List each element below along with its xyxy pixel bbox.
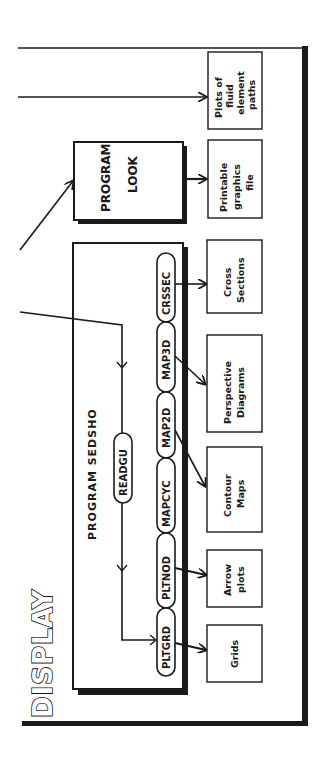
output-label-line: Printable [218,163,229,212]
pill-pltnod: PLTNOD [157,533,175,608]
output-fluid-paths: Plots of fluid element paths [208,52,262,129]
output-label-line: paths [246,79,257,110]
output-label-line: plots [235,566,246,593]
output-label-line: Maps [235,479,246,508]
output-printable-graphics: Printable graphics file [208,140,262,218]
pill-pltgrd: PLTGRD [157,608,175,676]
pill-map2d: MAP2D [157,392,175,458]
pill-mapcyc: MAPCYC [157,458,175,533]
pill-label: PLTNOD [161,556,172,600]
pill-label: CRSSEC [161,272,172,315]
program-sedsho-label: PROGRAM SEDSHO [86,408,99,540]
pill-label: MAPCYC [161,480,172,527]
output-label-line: Diagrams [235,367,246,418]
output-label-line: graphics [231,164,242,210]
readgu-pill: READGU [114,433,132,503]
output-label-line: file [244,174,255,191]
diagram-title: DISPLAY [28,589,58,718]
pill-label: MAP3D [161,340,172,380]
display-diagram: DISPLAY PROGRAM LOOK PROGRAM SEDSHO READ… [0,0,324,761]
pill-label: MAP2D [161,408,172,448]
output-label-line: Cross [222,267,233,297]
output-grids: Grids [207,625,262,682]
output-label-line: Contour [222,474,233,517]
output-label-line: Plots of [213,76,224,118]
output-label-line: Sections [235,257,246,303]
output-label-line: fluid [224,84,235,108]
output-boxes: Plots of fluid element paths Printable g… [207,52,262,682]
output-arrow-plots: Arrow plots [207,550,262,607]
program-look-line1: PROGRAM [99,143,113,212]
program-look-line2: LOOK [126,155,140,193]
readgu-label: READGU [118,449,129,496]
output-contour-maps: Contour Maps [207,447,262,532]
pill-map3d: MAP3D [157,322,175,392]
subroutine-pills: CRSSEC MAP3D MAP2D MAPCYC PLTNOD PLTGRD [157,253,175,676]
pill-crssec: CRSSEC [157,253,175,322]
output-label-line: Grids [229,639,240,668]
output-perspective-diagrams: Perspective Diagrams [207,335,262,432]
program-look-box: PROGRAM LOOK [74,142,187,224]
pill-label: PLTGRD [161,626,172,669]
input-arrow-look [20,181,73,250]
output-label-line: Arrow [222,564,233,596]
output-cross-sections: Cross Sections [207,240,262,313]
output-label-line: Perspective [222,361,233,424]
output-label-line: element [235,71,246,115]
